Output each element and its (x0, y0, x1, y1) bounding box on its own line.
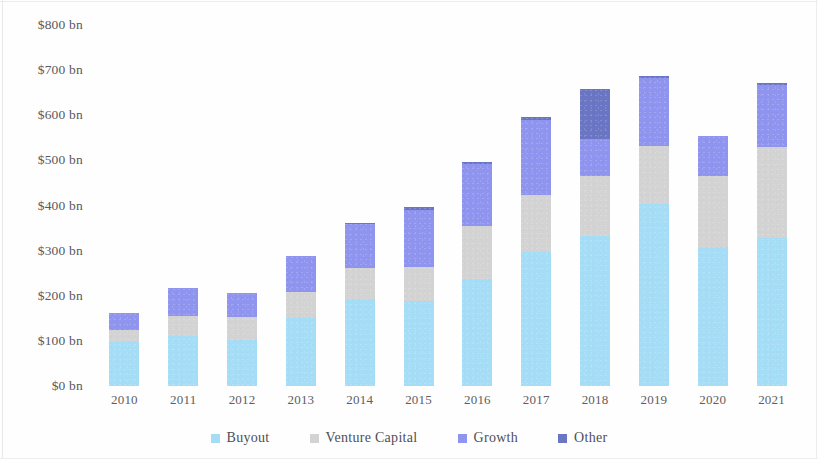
bar-segment[interactable] (639, 146, 669, 204)
bar-group[interactable] (404, 207, 434, 386)
bar-segment[interactable] (109, 330, 139, 342)
legend-swatch-icon (558, 434, 567, 443)
x-tick-label: 2012 (229, 392, 256, 408)
bar-segment[interactable] (286, 292, 316, 318)
bar-segment[interactable] (757, 238, 787, 386)
x-tick-label: 2010 (111, 392, 138, 408)
bar-group[interactable] (227, 293, 257, 386)
x-tick-label: 2018 (582, 392, 609, 408)
x-tick-label: 2013 (288, 392, 315, 408)
legend-item[interactable]: Other (558, 430, 607, 446)
legend-swatch-icon (458, 434, 467, 443)
chart-legend: BuyoutVenture CapitalGrowthOther (0, 430, 818, 446)
bar-group[interactable] (345, 223, 375, 386)
bar-segment[interactable] (580, 176, 610, 236)
bar-segment[interactable] (580, 236, 610, 386)
stacked-bar-chart: $0 bn$100 bn$200 bn$300 bn$400 bn$500 bn… (0, 0, 818, 459)
bar-segment[interactable] (462, 226, 492, 279)
x-tick-label: 2019 (641, 392, 668, 408)
bar-segment[interactable] (404, 210, 434, 267)
bar-segment[interactable] (580, 89, 610, 139)
page-edge-right (816, 0, 817, 459)
bar-segment[interactable] (109, 342, 139, 386)
legend-item[interactable]: Venture Capital (310, 430, 418, 446)
bar-segment[interactable] (462, 279, 492, 386)
bar-segment[interactable] (168, 336, 198, 386)
bar-segment[interactable] (168, 316, 198, 336)
y-tick-label: $0 bn (52, 378, 83, 394)
bar-group[interactable] (639, 76, 669, 386)
bar-segment[interactable] (109, 313, 139, 330)
bar-group[interactable] (757, 83, 787, 386)
bar-group[interactable] (168, 288, 198, 386)
legend-swatch-icon (310, 434, 319, 443)
bar-segment[interactable] (404, 267, 434, 301)
bar-segment[interactable] (345, 299, 375, 386)
bar-segment[interactable] (698, 136, 728, 176)
x-tick-label: 2015 (405, 392, 432, 408)
y-tick-label: $400 bn (38, 198, 83, 214)
bar-segment[interactable] (521, 117, 551, 120)
bar-group[interactable] (698, 136, 728, 386)
legend-label: Growth (474, 430, 519, 446)
x-tick-label: 2016 (464, 392, 491, 408)
legend-label: Venture Capital (326, 430, 418, 446)
y-tick-label: $100 bn (38, 333, 83, 349)
bar-segment[interactable] (757, 83, 787, 85)
y-tick-label: $800 bn (38, 17, 83, 33)
y-tick-label: $700 bn (38, 62, 83, 78)
legend-label: Buyout (227, 430, 270, 446)
bar-segment[interactable] (521, 252, 551, 386)
bar-segment[interactable] (580, 139, 610, 176)
x-tick-label: 2020 (699, 392, 726, 408)
y-tick-label: $500 bn (38, 152, 83, 168)
bar-segment[interactable] (757, 85, 787, 147)
bar-segment[interactable] (521, 195, 551, 252)
x-axis: 2010201120122013201420152016201720182019… (95, 392, 801, 414)
x-tick-label: 2011 (170, 392, 196, 408)
bar-group[interactable] (521, 117, 551, 386)
bar-segment[interactable] (227, 293, 257, 317)
bar-segment[interactable] (639, 204, 669, 386)
bar-segment[interactable] (521, 120, 551, 195)
x-tick-label: 2014 (346, 392, 373, 408)
legend-item[interactable]: Growth (458, 430, 519, 446)
bar-segment[interactable] (404, 301, 434, 386)
x-tick-label: 2021 (758, 392, 785, 408)
bar-segment[interactable] (698, 176, 728, 247)
bar-segment[interactable] (698, 247, 728, 386)
bar-segment[interactable] (227, 340, 257, 386)
page-edge-top (0, 1, 818, 2)
bar-segment[interactable] (345, 224, 375, 267)
bar-segment[interactable] (757, 147, 787, 238)
y-tick-label: $600 bn (38, 107, 83, 123)
bar-segment[interactable] (462, 162, 492, 164)
bar-segment[interactable] (286, 256, 316, 292)
legend-item[interactable]: Buyout (211, 430, 270, 446)
bar-segment[interactable] (227, 317, 257, 340)
bar-segment[interactable] (639, 78, 669, 146)
x-tick-label: 2017 (523, 392, 550, 408)
y-tick-label: $300 bn (38, 243, 83, 259)
legend-label: Other (574, 430, 607, 446)
legend-swatch-icon (211, 434, 220, 443)
bar-segment[interactable] (345, 268, 375, 299)
bar-group[interactable] (286, 256, 316, 386)
bar-segment[interactable] (286, 317, 316, 386)
y-tick-label: $200 bn (38, 288, 83, 304)
plot-area (95, 25, 801, 386)
bar-segment[interactable] (462, 164, 492, 226)
bar-group[interactable] (109, 313, 139, 386)
bar-segment[interactable] (168, 288, 198, 316)
y-axis: $0 bn$100 bn$200 bn$300 bn$400 bn$500 bn… (0, 0, 95, 411)
bar-group[interactable] (462, 162, 492, 386)
bar-segment[interactable] (345, 223, 375, 225)
bar-segment[interactable] (639, 76, 669, 78)
bar-segment[interactable] (404, 207, 434, 211)
bar-group[interactable] (580, 89, 610, 386)
